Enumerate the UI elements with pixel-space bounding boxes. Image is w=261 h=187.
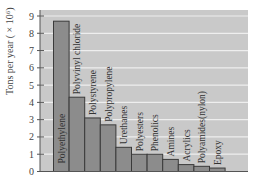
y-tick-label: 6 (29, 62, 34, 73)
bar (132, 154, 148, 171)
bar-label: Urethanes (119, 105, 129, 144)
bar (116, 147, 132, 171)
bar-label: Polystyrene (88, 70, 98, 115)
bar (163, 159, 179, 171)
bar-label: Acrylics (182, 129, 192, 161)
bar (85, 118, 101, 172)
bar (147, 154, 163, 171)
y-tick-label: 2 (29, 131, 34, 142)
bar-label: Polyethylene (57, 114, 67, 164)
y-axis-label: Tons per year ( × 10⁶) (4, 7, 15, 95)
bar (178, 165, 194, 172)
bar (100, 125, 116, 172)
y-tick-label: 3 (29, 114, 34, 125)
bar-label: Phenolics (150, 114, 160, 151)
y-tick-label: 1 (29, 149, 34, 160)
bar-chart: 0123456789 PolyethylenePolyvinyl chlorid… (0, 0, 261, 187)
bar-label: Epoxy (213, 140, 223, 165)
y-tick-label: 4 (29, 97, 34, 108)
bar-label: Polyamides(nylon) (197, 91, 208, 163)
bar (210, 168, 226, 171)
y-tick-label: 0 (29, 166, 34, 177)
y-tick-label: 5 (29, 80, 34, 91)
bar (194, 166, 210, 171)
y-tick-label: 7 (29, 45, 34, 56)
bar-label: Polyvinyl chloride (72, 24, 82, 94)
bar-label: Polyesters (135, 112, 145, 151)
bar-label: Amines (166, 127, 176, 157)
bar-label: Polypropylene (104, 66, 114, 121)
y-tick-label: 9 (29, 11, 34, 22)
y-tick-label: 8 (29, 28, 34, 39)
bar (69, 97, 85, 171)
